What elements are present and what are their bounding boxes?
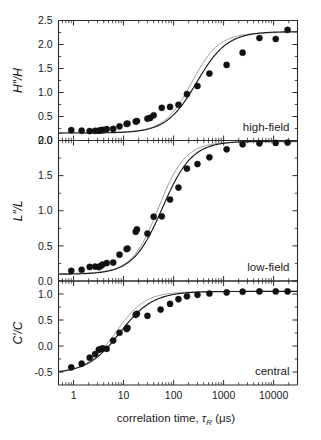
panel-tag-low-field: low-field: [247, 261, 289, 273]
data-point: [144, 230, 150, 236]
data-point: [159, 105, 165, 111]
y-tick-label: -0.5: [34, 366, 52, 378]
data-point: [175, 102, 181, 108]
x-axis-title-main: correlation time,: [117, 412, 202, 424]
data-point: [104, 126, 110, 132]
data-point: [79, 267, 85, 273]
data-point: [194, 292, 200, 298]
data-point: [194, 161, 200, 167]
data-point: [273, 288, 279, 294]
data-point: [175, 184, 181, 190]
data-point: [68, 127, 74, 133]
y-tick-label: 0.5: [38, 314, 53, 326]
data-point: [240, 50, 246, 56]
data-point: [240, 289, 246, 295]
data-point: [151, 112, 157, 118]
data-point: [87, 355, 93, 361]
data-point: [206, 290, 212, 296]
y-axis-title-high-field: H″/H: [11, 68, 25, 93]
data-layer-low-field: [59, 140, 298, 275]
data-point: [151, 214, 157, 220]
fit-curve-fit-primary-high-field: [59, 32, 298, 133]
data-point: [134, 311, 140, 317]
data-point: [110, 126, 116, 132]
data-point: [124, 245, 130, 251]
three-panel-log-plot: 0.00.51.01.52.02.5high-fieldH″/H0.00.51.…: [0, 0, 321, 440]
data-point: [79, 361, 85, 367]
data-point: [206, 154, 212, 160]
data-point: [240, 141, 246, 147]
data-point: [144, 313, 150, 319]
y-tick-label: 1.0: [38, 204, 53, 216]
data-point: [194, 83, 200, 89]
panel-low-field: 0.00.51.01.52.0low-fieldL″/L: [11, 134, 298, 287]
y-tick-label: 1.5: [38, 62, 53, 74]
data-point: [116, 330, 122, 336]
data-point: [158, 307, 164, 313]
data-point: [167, 196, 173, 202]
data-point: [167, 104, 173, 110]
y-tick-label: 1.0: [38, 86, 53, 98]
data-point: [87, 264, 93, 270]
y-tick-label: 2.0: [38, 38, 53, 50]
data-point: [68, 364, 74, 370]
data-point: [273, 36, 279, 42]
y-axis-title-central: C′/C: [11, 321, 25, 344]
data-point: [134, 118, 140, 124]
data-point: [206, 70, 212, 76]
data-point: [124, 121, 130, 127]
x-tick-label: 1: [71, 389, 77, 401]
data-layer-central: [59, 288, 298, 371]
x-tick-label: 10000: [259, 389, 288, 401]
data-point: [124, 325, 130, 331]
data-point: [110, 259, 116, 265]
data-point: [116, 252, 122, 258]
data-layer-high-field: [59, 27, 298, 134]
panel-tag-central: central: [255, 365, 290, 377]
data-point: [184, 166, 190, 172]
data-point: [116, 123, 122, 129]
data-point: [110, 337, 116, 343]
data-point: [284, 140, 290, 146]
data-point: [104, 346, 110, 352]
y-tick-label: 1.0: [38, 288, 53, 300]
fit-curve-fit-primary-central: [59, 291, 298, 371]
x-axis-title-units: (μs): [212, 412, 235, 424]
data-point: [167, 301, 173, 307]
data-point: [68, 268, 74, 274]
data-point: [87, 128, 93, 134]
x-tick-label: 10: [118, 389, 130, 401]
y-tick-label: 0.5: [38, 240, 53, 252]
fit-curve-fit-alternate-high-field: [59, 33, 298, 133]
x-tick-label: 1000: [212, 389, 236, 401]
data-point: [284, 288, 290, 294]
data-point: [175, 296, 181, 302]
x-tick-label: 100: [165, 389, 183, 401]
figure-root: 0.00.51.01.52.02.5high-fieldH″/H0.00.51.…: [0, 0, 321, 440]
data-point: [159, 213, 165, 219]
data-point: [104, 260, 110, 266]
data-point: [273, 140, 279, 146]
data-point: [256, 35, 262, 41]
y-tick-label: 0.0: [38, 340, 53, 352]
y-tick-label: 2.0: [38, 134, 53, 146]
y-tick-label: 1.5: [38, 169, 53, 181]
data-point: [184, 91, 190, 97]
data-point: [134, 226, 140, 232]
data-point: [256, 140, 262, 146]
y-tick-label: 0.0: [38, 275, 53, 287]
data-point: [284, 27, 290, 33]
y-tick-label: 2.5: [38, 14, 53, 26]
fit-curve-fit-alternate-low-field: [59, 142, 298, 274]
data-point: [224, 62, 230, 68]
x-axis-title: correlation time, τR (μs): [117, 412, 236, 427]
y-axis-title-low-field: L″/L: [11, 200, 25, 221]
fit-curve-fit-primary-low-field: [59, 141, 298, 274]
data-point: [256, 288, 262, 294]
y-tick-label: 0.5: [38, 110, 53, 122]
data-point: [184, 293, 190, 299]
data-point: [224, 289, 230, 295]
data-point: [79, 128, 85, 134]
panel-tag-high-field: high-field: [243, 121, 290, 133]
data-point: [224, 146, 230, 152]
